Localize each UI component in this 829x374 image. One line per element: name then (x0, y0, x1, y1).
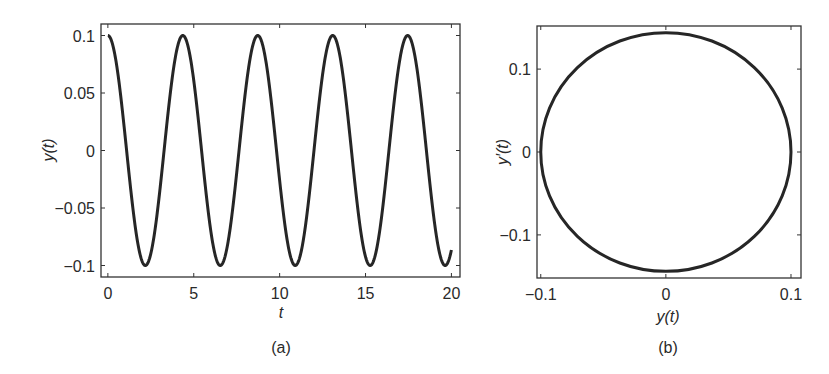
panel-b-curve (541, 33, 791, 272)
y-tick-label: 0.1 (509, 61, 531, 78)
panel-b-y-ticks: 0.10−0.1 (499, 61, 801, 244)
y-tick-label: −0.05 (55, 200, 96, 217)
panel-a-ylabel: y(t) (40, 138, 57, 162)
panel-a-time-series: 05101520 0.10.050−0.05−0.1 t y(t) (a) (40, 24, 460, 356)
x-tick-label: 20 (443, 285, 461, 302)
y-tick-label: 0 (86, 143, 95, 160)
y-tick-label: 0.05 (64, 85, 95, 102)
x-tick-label: 0 (661, 286, 670, 303)
x-tick-label: 10 (271, 285, 289, 302)
panel-b-caption: (b) (658, 339, 678, 356)
panel-b-x-ticks: −0.100.1 (525, 26, 802, 303)
panel-b-phase-portrait: −0.100.1 0.10−0.1 y(t) y′(t) (b) (494, 26, 802, 356)
panel-a-curve (108, 36, 452, 266)
panel-b-axes-box (537, 26, 801, 278)
x-tick-label: 15 (357, 285, 375, 302)
y-tick-label: 0 (522, 144, 531, 161)
panel-a-xlabel: t (279, 304, 284, 321)
x-tick-label: 0.1 (780, 286, 802, 303)
panel-a-caption: (a) (271, 339, 291, 356)
x-tick-label: −0.1 (525, 286, 557, 303)
panel-b-xlabel: y(t) (655, 308, 679, 325)
x-tick-label: 5 (189, 285, 198, 302)
panel-b-ylabel: y′(t) (494, 139, 511, 166)
y-tick-label: 0.1 (73, 28, 95, 45)
y-tick-label: −0.1 (63, 258, 95, 275)
panel-a-x-ticks: 05101520 (103, 24, 460, 302)
figure: 05101520 0.10.050−0.05−0.1 t y(t) (a) −0… (0, 0, 829, 374)
x-tick-label: 0 (103, 285, 112, 302)
y-tick-label: −0.1 (499, 227, 531, 244)
